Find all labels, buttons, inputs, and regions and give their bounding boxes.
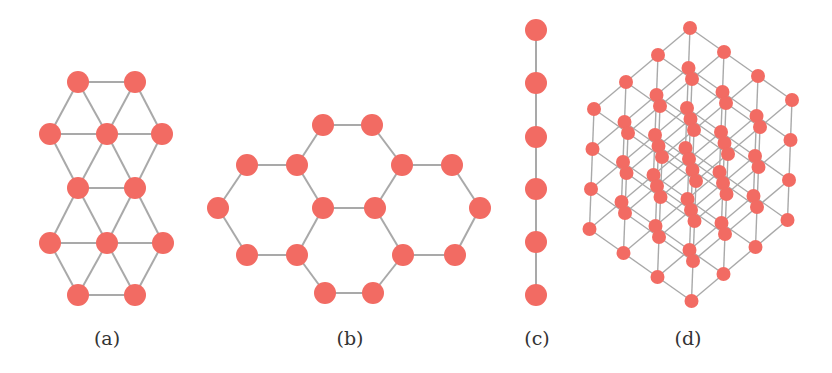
panel-a-graph [39,71,174,306]
atom-node [96,232,118,254]
atom-node [362,282,384,304]
atom-node [654,190,668,204]
atom-node [653,99,667,113]
atom-node [689,174,703,188]
atom-node [312,197,334,219]
atom-node [621,126,635,140]
atom-node [685,294,699,308]
atom-node [720,187,734,201]
atom-node [751,69,765,83]
panel-label-b: (b) [337,327,364,349]
atom-node [586,142,600,156]
atom-node [441,154,463,176]
atom-node [652,230,666,244]
atom-node [525,284,547,306]
atom-node [781,213,795,227]
atom-node [651,48,665,62]
atom-node [124,71,146,93]
atom-node [721,147,735,161]
atom-node [392,244,414,266]
atom-node [618,206,632,220]
atom-node [688,214,702,228]
atom-node [717,45,731,59]
atom-node [391,154,413,176]
atom-node [364,197,386,219]
panel-label-d: (d) [675,327,702,349]
atom-node [124,284,146,306]
atom-node [314,282,336,304]
atom-node [655,150,669,164]
atom-node [525,126,547,148]
atom-node [749,240,763,254]
atom-node [583,222,597,236]
atom-node [525,231,547,253]
atom-node [753,120,767,134]
atom-node [620,166,634,180]
atom-node [718,227,732,241]
atom-node [587,102,601,116]
atom-node [719,96,733,110]
atom-node [717,267,731,281]
atom-node [67,284,89,306]
atom-node [312,114,334,136]
atom-node [782,173,796,187]
atom-node [236,244,258,266]
atom-node [39,123,61,145]
lattice-figure: (a) (b) (c) (d) [0,0,832,373]
atom-node [444,244,466,266]
panel-label-c: (c) [524,327,549,349]
atom-node [752,160,766,174]
atom-node [361,114,383,136]
atom-node [67,71,89,93]
panel-d-graph [583,21,800,308]
panel-label-a: (a) [94,327,120,349]
atom-node [651,270,665,284]
atom-node [584,182,598,196]
atom-node [525,72,547,94]
atom-node [619,75,633,89]
panel-b-graph [207,114,491,304]
atom-node [286,244,308,266]
atom-node [686,254,700,268]
atom-node [784,133,798,147]
lattice-diagram [0,0,832,373]
atom-node [683,21,697,35]
atom-node [236,154,258,176]
atom-node [687,123,701,137]
atom-node [39,232,61,254]
atom-node [750,200,764,214]
atom-node [96,123,118,145]
atom-node [207,197,229,219]
atom-node [151,123,173,145]
atom-node [525,178,547,200]
atom-node [617,246,631,260]
atom-node [67,177,89,199]
atom-node [785,93,799,107]
atom-node [525,19,547,41]
atom-node [469,197,491,219]
atom-node [685,72,699,86]
atom-node [124,177,146,199]
atom-node [152,232,174,254]
panel-c-graph [525,19,547,306]
atom-node [286,154,308,176]
